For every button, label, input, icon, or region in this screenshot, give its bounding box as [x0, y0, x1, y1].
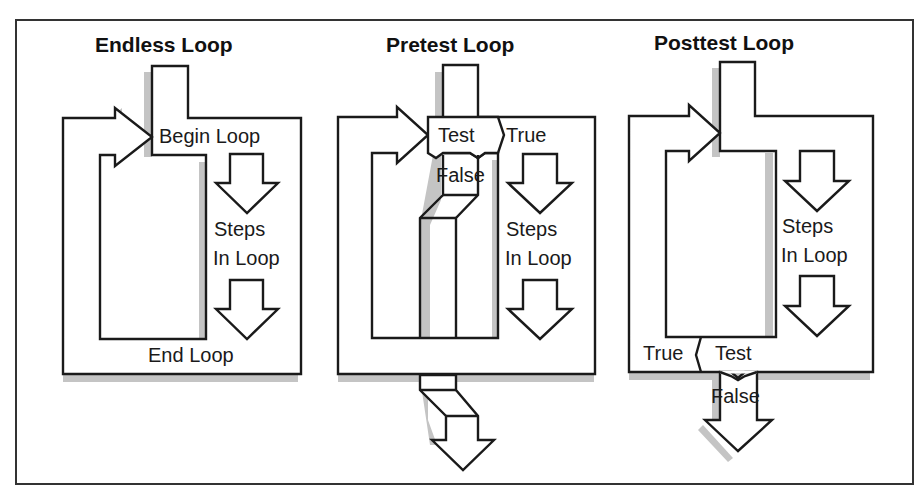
label-in-loop: In Loop: [505, 247, 572, 269]
panel-title-posttest: Posttest Loop: [654, 31, 794, 54]
label-steps: Steps: [506, 218, 557, 240]
posttest-loop-body: [629, 62, 873, 372]
label-steps: Steps: [782, 215, 833, 237]
panel-posttest-loop: Posttest Loop Steps In Loop True Test Fa…: [621, 31, 873, 462]
panel-title-endless: Endless Loop: [95, 33, 233, 56]
endless-loop-body: [63, 66, 301, 374]
label-test: Test: [715, 342, 752, 364]
loop-types-diagram: Endless Loop Begin Loop Steps In Loop En…: [0, 0, 924, 499]
label-true: True: [506, 124, 546, 146]
label-false: False: [711, 385, 760, 407]
label-steps: Steps: [214, 218, 265, 240]
panel-title-pretest: Pretest Loop: [386, 33, 514, 56]
panel-endless-loop: Endless Loop Begin Loop Steps In Loop En…: [55, 33, 301, 382]
label-in-loop: In Loop: [781, 244, 848, 266]
panel-pretest-loop: Pretest Loop Test True False Steps In L: [330, 33, 595, 470]
label-true: True: [643, 342, 683, 364]
label-test: Test: [438, 124, 475, 146]
label-begin-loop: Begin Loop: [159, 125, 260, 147]
label-end-loop: End Loop: [148, 344, 234, 366]
label-false: False: [436, 164, 485, 186]
label-in-loop: In Loop: [213, 247, 280, 269]
